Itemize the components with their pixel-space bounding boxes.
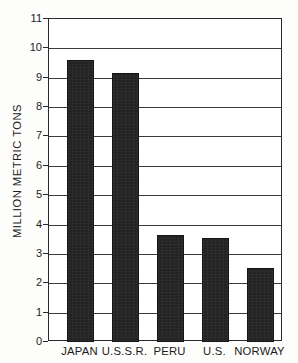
y-axis-tick-label: 11 [2, 12, 42, 24]
y-axis-tick-label: 5 [2, 188, 42, 200]
y-axis-tick-label: 2 [2, 276, 42, 288]
y-axis-tick-label: 6 [2, 159, 42, 171]
y-axis-tick-label: 4 [2, 218, 42, 230]
gridline [49, 48, 281, 49]
plot-area [48, 18, 282, 341]
bar [157, 235, 184, 342]
bar [247, 268, 274, 342]
bar-chart-figure: MILLION METRIC TONS 11109876543210 JAPAN… [0, 0, 297, 363]
y-axis-tick-label: 10 [2, 41, 42, 53]
bar [67, 60, 94, 342]
bar [112, 73, 139, 342]
x-axis-category-label: NORWAY [220, 345, 298, 357]
y-axis-tick-mark [43, 341, 48, 342]
y-axis-tick-label: 0 [2, 335, 42, 347]
y-axis-tick-label: 8 [2, 100, 42, 112]
y-axis-tick-label: 9 [2, 71, 42, 83]
y-axis-tick-label: 3 [2, 247, 42, 259]
y-axis-tick-label: 1 [2, 306, 42, 318]
bar [202, 238, 229, 342]
y-axis-tick-label: 7 [2, 129, 42, 141]
